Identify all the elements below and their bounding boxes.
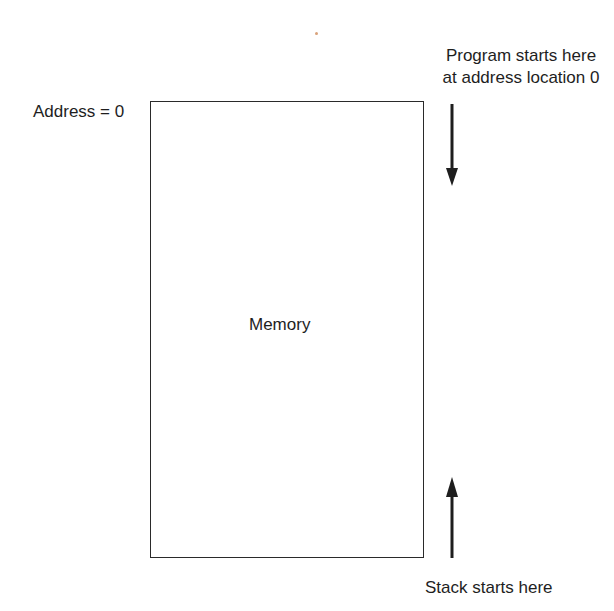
arrow-up-icon <box>446 477 458 558</box>
stack-start-label: Stack starts here <box>425 578 553 598</box>
growth-arrows <box>0 0 614 611</box>
arrow-down-icon <box>446 104 458 186</box>
